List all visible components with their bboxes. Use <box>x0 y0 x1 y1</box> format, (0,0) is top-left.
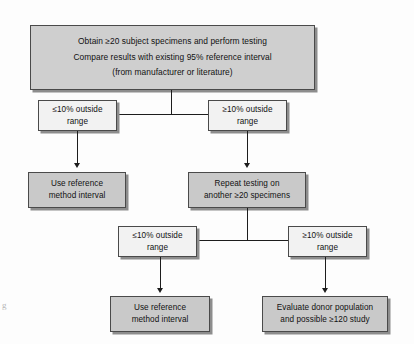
flowchart-diagram: Obtain ≥20 subject specimens and perform… <box>0 0 414 344</box>
node-decision-1-left: ≤10% outside range <box>38 100 117 131</box>
arrowhead-to-outcome-1 <box>74 163 80 168</box>
margin-glyph: g <box>2 300 7 310</box>
node-decision-1-right: ≥10% outside range <box>208 100 287 131</box>
node-decision-2-right-label: ≥10% outside range <box>299 230 355 254</box>
arrowhead-to-repeat <box>244 163 250 168</box>
node-start-line2: Compare results with existing 95% refere… <box>70 50 274 66</box>
node-start: Obtain ≥20 subject specimens and perform… <box>30 25 315 90</box>
connector-to-outcome-3 <box>325 257 326 290</box>
connector-to-repeat <box>247 131 248 165</box>
node-outcome-3: Evaluate donor population and possible ≥… <box>262 296 388 332</box>
node-decision-1-left-label: ≤10% outside range <box>49 104 105 128</box>
connector-to-outcome-1 <box>77 131 78 165</box>
node-outcome-2: Use reference method interval <box>110 296 210 332</box>
arrowhead-to-outcome-2 <box>157 288 163 293</box>
node-outcome-1: Use reference method interval <box>28 172 126 208</box>
node-outcome-1-label: Use reference method interval <box>46 178 109 202</box>
node-decision-1-right-label: ≥10% outside range <box>219 104 275 128</box>
node-decision-2-left-label: ≤10% outside range <box>129 230 185 254</box>
node-start-line1: Obtain ≥20 subject specimens and perform… <box>75 34 270 50</box>
connector-repeat-stem <box>247 208 248 241</box>
node-decision-2-left: ≤10% outside range <box>118 226 197 257</box>
connector-start-stem <box>171 90 172 115</box>
node-decision-2-right: ≥10% outside range <box>288 226 367 257</box>
node-start-line3: (from manufacturer or literature) <box>109 65 235 81</box>
node-repeat-testing-label: Repeat testing on another ≥20 specimens <box>201 178 293 202</box>
node-outcome-2-label: Use reference method interval <box>129 302 192 326</box>
arrowhead-to-outcome-3 <box>322 288 328 293</box>
connector-to-outcome-2 <box>160 257 161 290</box>
node-repeat-testing: Repeat testing on another ≥20 specimens <box>188 172 306 208</box>
node-outcome-3-label: Evaluate donor population and possible ≥… <box>274 302 376 326</box>
